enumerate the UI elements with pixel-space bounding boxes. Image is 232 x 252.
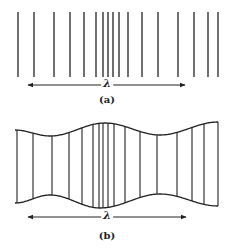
bottom-boundary-curve (15, 194, 218, 208)
wavelength-symbol-b: λ (101, 210, 113, 221)
longitudinal-wave-diagram (0, 0, 232, 252)
panel-b-compressions (15, 122, 218, 217)
panel-b-label: (b) (99, 231, 115, 241)
panel-a-label: (a) (99, 95, 115, 105)
top-boundary-curve (15, 122, 218, 136)
wavelength-symbol-a: λ (101, 78, 113, 89)
panel-a-compressions (18, 12, 218, 85)
